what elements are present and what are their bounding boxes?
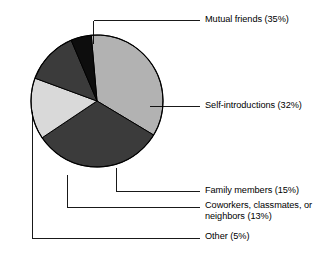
- pie-label-other: Other (5%): [205, 231, 249, 242]
- leader-line-family-members: [117, 168, 201, 192]
- pie-label-self-introductions: Self-introductions (32%): [205, 100, 302, 111]
- pie-label-family-members: Family members (15%): [205, 185, 299, 196]
- pie-chart-figure: Mutual friends (35%) Self-introductions …: [0, 0, 336, 258]
- pie-slices: [31, 35, 163, 167]
- pie-label-coworkers: Coworkers, classmates, or neighbors (13%…: [205, 200, 333, 223]
- pie-label-mutual-friends: Mutual friends (35%): [205, 14, 289, 25]
